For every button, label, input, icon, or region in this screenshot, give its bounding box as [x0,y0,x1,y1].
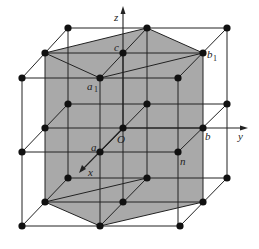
label-a: a [91,141,97,153]
lattice-diagram: z y x O c a 1 b 1 a b n [0,0,259,249]
label-a1-sub: 1 [94,85,98,94]
x-label: x [87,166,93,178]
label-n: n [180,155,186,167]
label-a1: a [87,80,93,92]
y-label: y [237,130,243,142]
label-b: b [205,130,211,142]
origin-label: O [117,133,125,145]
label-c: c [114,41,119,53]
label-b1-sub: 1 [213,54,217,63]
z-arrow-icon [121,6,126,14]
z-label: z [113,11,119,23]
